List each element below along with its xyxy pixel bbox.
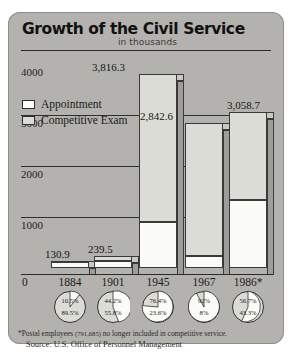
legend-label-competitive-exam: Competitive Exam <box>41 114 128 126</box>
legend-item-appointment: Appointment <box>22 97 128 111</box>
pie-label-competitive-1986: 43.3% <box>231 309 265 316</box>
y-axis-tick-zero: 0 <box>22 276 28 288</box>
bar-side-face <box>267 119 274 275</box>
y-axis-tick-2000: 2000 <box>21 168 43 180</box>
pie-label-appointment-1945: 76.4% <box>141 297 175 304</box>
bar-value-label-1945: 3,816.3 <box>92 61 125 73</box>
bar-top-face <box>131 256 139 263</box>
footnote-text-post: no longer included in competitive servic… <box>103 329 227 338</box>
footnote-number: (791,685) <box>75 330 101 337</box>
bar-segment-competitive-exam <box>229 112 267 200</box>
source-line: Source: U.S. Office of Personnel Managem… <box>26 340 182 349</box>
bar-value-label-1986: 3,058.7 <box>227 99 260 111</box>
pie-chart-1884: 10.5%89.5% <box>53 290 87 324</box>
bar-1884 <box>51 261 89 268</box>
bar-value-label-1901: 239.5 <box>88 243 113 255</box>
chart-legend: Appointment Competitive Exam <box>22 97 128 129</box>
x-axis-line <box>21 274 273 275</box>
x-axis-tick-1986: 1986* <box>226 276 270 288</box>
bar-segment-appointment <box>185 256 223 268</box>
footnote-asterisk: *Postal employees (791,685) no longer in… <box>18 329 280 338</box>
bar-segment-appointment <box>94 261 132 268</box>
pie-label-competitive-1901: 55.8% <box>96 309 130 316</box>
chart-subtitle: in thousands <box>118 37 177 47</box>
bar-1945 <box>139 74 177 268</box>
bar-top-face <box>176 74 184 81</box>
x-axis-tick-1967: 1967 <box>182 276 226 288</box>
bar-segment-appointment <box>139 222 177 268</box>
page-title: Growth of the Civil Service <box>22 20 245 38</box>
pie-label-appointment-1901: 44.2% <box>96 297 130 304</box>
legend-swatch-competitive-exam <box>22 116 35 125</box>
bar-segment-competitive-exam <box>185 123 223 256</box>
pie-chart-1901: 44.2%55.8% <box>96 290 130 324</box>
y-axis-tick-4000: 4000 <box>21 66 43 78</box>
bar-chart-plot: 1000200030004000130.9239.53,816.32,842.6… <box>21 54 273 268</box>
bar-segment-appointment <box>229 200 267 268</box>
pie-label-appointment-1986: 56.7% <box>231 297 265 304</box>
pie-chart-1945: 76.4%23.6% <box>141 290 175 324</box>
pie-chart-1967: 92%8% <box>187 290 221 324</box>
pie-label-appointment-1884: 10.5% <box>53 297 87 304</box>
bar-segment-competitive-exam <box>139 74 177 223</box>
chart-card: Growth of the Civil Service in thousands… <box>8 12 284 344</box>
pie-chart-1986: 56.7%43.3% <box>231 290 265 324</box>
pie-label-appointment-1967: 92% <box>187 297 221 304</box>
bar-value-label-1884: 130.9 <box>45 248 70 260</box>
bar-1986 <box>229 112 267 268</box>
pie-label-competitive-1945: 23.6% <box>141 309 175 316</box>
x-axis-tick-1945: 1945 <box>136 276 180 288</box>
y-axis-tick-1000: 1000 <box>21 219 43 231</box>
legend-swatch-appointment <box>22 100 35 109</box>
bar-value-label-1967: 2,842.6 <box>140 110 173 122</box>
bar-1901 <box>94 256 132 268</box>
bar-side-face <box>177 81 184 275</box>
x-axis-tick-1901: 1901 <box>91 276 135 288</box>
bar-segment-appointment <box>51 262 89 268</box>
title-divider <box>21 50 271 51</box>
bar-top-face <box>266 112 274 119</box>
legend-label-appointment: Appointment <box>41 98 102 110</box>
pie-label-competitive-1884: 89.5% <box>53 309 87 316</box>
legend-item-competitive-exam: Competitive Exam <box>22 113 128 127</box>
footnote-text-pre: *Postal employees <box>18 329 73 338</box>
pie-label-competitive-1967: 8% <box>187 309 221 316</box>
x-axis-tick-1884: 1884 <box>48 276 92 288</box>
bar-1967 <box>185 123 223 268</box>
